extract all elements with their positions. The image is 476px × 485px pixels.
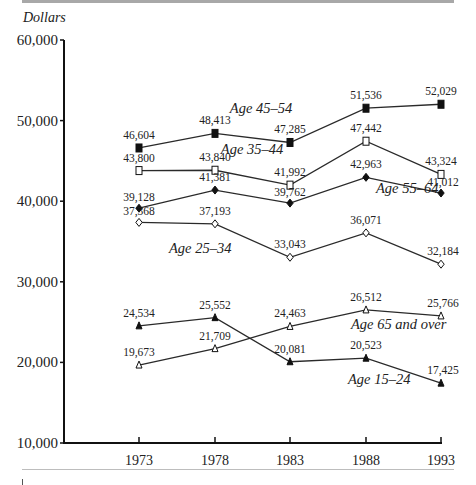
filled-diamond-marker-icon bbox=[212, 186, 218, 194]
data-label: 19,673 bbox=[123, 346, 155, 359]
y-tick-label: 60,000 bbox=[17, 32, 58, 48]
data-label: 47,285 bbox=[274, 123, 306, 136]
y-tick-label: 10,000 bbox=[17, 435, 58, 451]
data-label: 33,043 bbox=[274, 238, 306, 251]
data-label: 37,368 bbox=[123, 205, 155, 218]
data-label: 39,762 bbox=[274, 186, 306, 199]
x-tick-label: 1993 bbox=[427, 453, 455, 468]
open-triangle-marker-icon bbox=[363, 306, 369, 313]
data-label: 41,992 bbox=[274, 166, 306, 179]
data-label: 21,709 bbox=[199, 330, 231, 343]
x-tick-label: 1978 bbox=[201, 453, 229, 468]
data-label: 52,029 bbox=[425, 85, 457, 98]
data-label: 24,463 bbox=[274, 307, 306, 320]
series-label: Age 65 and over bbox=[350, 316, 447, 332]
data-label: 41,381 bbox=[199, 171, 231, 184]
series-age-45-54: 46,60448,41347,28551,53652,029Age 45–54 bbox=[123, 85, 457, 152]
series-label: Age 25–34 bbox=[168, 240, 231, 256]
data-label: 36,071 bbox=[350, 214, 382, 227]
series-age-65-and-over: 19,67321,70924,46326,51225,766Age 65 and… bbox=[123, 291, 459, 368]
series-label: Age 55–64 bbox=[375, 180, 438, 196]
data-label: 25,766 bbox=[427, 297, 459, 310]
series-label: Age 35–44 bbox=[220, 141, 283, 157]
series-label: Age 15–24 bbox=[347, 371, 410, 387]
data-label: 37,193 bbox=[199, 205, 231, 218]
series-age-25-34: 37,36837,19333,04336,07132,184Age 25–34 bbox=[123, 205, 459, 268]
data-label: 42,963 bbox=[350, 158, 382, 171]
axes: 10,00020,00030,00040,00050,00060,0001973… bbox=[17, 32, 455, 468]
y-tick-label: 30,000 bbox=[17, 274, 58, 290]
filled-diamond-marker-icon bbox=[287, 199, 293, 207]
data-label: 48,413 bbox=[199, 114, 231, 127]
x-tick-label: 1973 bbox=[125, 453, 153, 468]
corner-mark bbox=[22, 479, 23, 485]
filled-diamond-marker-icon bbox=[363, 173, 369, 181]
series-label: Age 45–54 bbox=[229, 100, 292, 116]
data-label: 17,425 bbox=[427, 364, 459, 377]
data-label: 25,552 bbox=[199, 299, 231, 312]
y-tick-label: 20,000 bbox=[17, 354, 58, 370]
open-square-marker-icon bbox=[136, 167, 142, 175]
filled-square-marker-icon bbox=[287, 138, 293, 146]
open-diamond-marker-icon bbox=[287, 253, 293, 261]
open-diamond-marker-icon bbox=[438, 260, 444, 268]
y-tick-label: 40,000 bbox=[17, 193, 58, 209]
data-label: 24,534 bbox=[123, 307, 155, 320]
open-diamond-marker-icon bbox=[136, 218, 142, 226]
filled-square-marker-icon bbox=[438, 100, 444, 108]
filled-square-marker-icon bbox=[212, 129, 218, 137]
open-diamond-marker-icon bbox=[212, 220, 218, 228]
data-label: 20,523 bbox=[350, 339, 382, 352]
data-label: 43,324 bbox=[425, 155, 457, 168]
x-tick-label: 1988 bbox=[352, 453, 380, 468]
data-label: 39,128 bbox=[123, 191, 155, 204]
data-label: 47,442 bbox=[350, 122, 382, 135]
filled-diamond-marker-icon bbox=[438, 189, 444, 197]
filled-square-marker-icon bbox=[363, 104, 369, 112]
data-label: 43,800 bbox=[123, 152, 155, 165]
open-square-marker-icon bbox=[363, 137, 369, 145]
open-diamond-marker-icon bbox=[363, 229, 369, 237]
y-tick-label: 50,000 bbox=[17, 113, 58, 129]
data-label: 20,081 bbox=[274, 343, 306, 356]
data-label: 51,536 bbox=[350, 89, 382, 102]
data-label: 26,512 bbox=[350, 291, 382, 304]
line-chart: 10,00020,00030,00040,00050,00060,0001973… bbox=[0, 0, 476, 485]
bottom-rule bbox=[22, 469, 454, 470]
series-line bbox=[139, 141, 441, 185]
filled-triangle-marker-icon bbox=[212, 314, 218, 321]
data-label: 32,184 bbox=[427, 245, 459, 258]
data-label: 46,604 bbox=[123, 129, 155, 142]
x-tick-label: 1983 bbox=[276, 453, 304, 468]
